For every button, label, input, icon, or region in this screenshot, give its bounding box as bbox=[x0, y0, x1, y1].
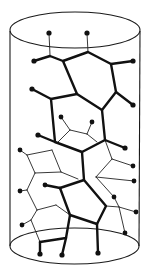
atom bbox=[84, 30, 89, 35]
atom bbox=[130, 102, 135, 107]
atoms bbox=[18, 30, 139, 257]
atom bbox=[134, 210, 139, 215]
atom bbox=[20, 223, 25, 228]
atom bbox=[131, 164, 136, 169]
cylinder-bottom-ellipse bbox=[10, 228, 139, 264]
diagram-canvas bbox=[0, 0, 148, 272]
atom bbox=[37, 251, 42, 256]
cylinder-top-ellipse bbox=[10, 12, 140, 48]
cylinder-outline bbox=[10, 12, 140, 264]
atom bbox=[130, 58, 135, 63]
cylinder-right-wall bbox=[139, 31, 140, 246]
atom bbox=[123, 231, 128, 236]
atom bbox=[18, 148, 23, 153]
atom bbox=[43, 183, 48, 188]
atom bbox=[35, 132, 40, 137]
atom bbox=[90, 120, 95, 125]
atom bbox=[46, 30, 51, 35]
atom bbox=[122, 145, 127, 150]
atom bbox=[59, 115, 64, 120]
front-bonds bbox=[32, 52, 133, 255]
atom bbox=[29, 86, 34, 91]
atom bbox=[112, 195, 117, 200]
atom bbox=[31, 58, 36, 63]
atom bbox=[95, 250, 100, 255]
cylinder-molecule-diagram: Helical molecular network wrapped on a c… bbox=[0, 0, 148, 272]
atom bbox=[59, 252, 64, 257]
atom bbox=[132, 179, 137, 184]
atom bbox=[18, 189, 23, 194]
